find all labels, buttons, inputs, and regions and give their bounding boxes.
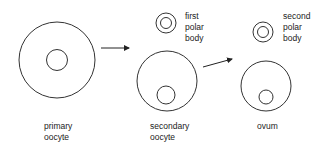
- second-polar-body-label: second polar body: [283, 11, 313, 43]
- first-polar-body-label: first polar body: [185, 11, 206, 43]
- ovum-cell: [241, 61, 291, 111]
- second-polar-body-cell: [253, 22, 273, 42]
- primary-oocyte-cell: [19, 22, 95, 98]
- secondary-oocyte-cell: [137, 51, 197, 111]
- arrow-2: [203, 59, 232, 67]
- secondary-oocyte-label: secondary oocyte: [150, 121, 192, 142]
- oogenesis-diagram: primary oocyte first polar body secondar…: [0, 0, 327, 150]
- primary-oocyte-label: primary oocyte: [44, 121, 75, 142]
- ovum-label: ovum: [257, 121, 278, 131]
- first-polar-body-cell: [156, 13, 176, 33]
